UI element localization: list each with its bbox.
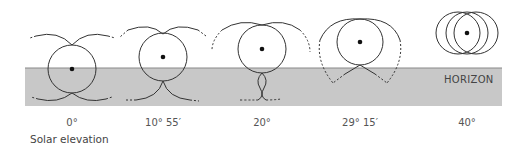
sun-center-dot xyxy=(70,67,75,72)
solar-elevation-diagram: HORIZON 0° 10° 55′ 20° 29° 15′ 40° Solar… xyxy=(0,0,524,156)
upper-arc-left xyxy=(36,34,72,45)
sun-center-dot xyxy=(358,40,363,45)
sun-center-dot xyxy=(161,55,166,60)
sun-center-dot xyxy=(465,31,470,36)
left-lobe xyxy=(436,12,480,54)
stage-40deg xyxy=(436,12,498,54)
stage-label-4: 40° xyxy=(458,117,476,128)
stage-label-3: 29° 15′ xyxy=(342,117,378,128)
horizon-label: HORIZON xyxy=(444,74,494,85)
sun-center-dot xyxy=(260,47,265,52)
stage-label-2: 20° xyxy=(253,117,271,128)
upper-arc-right xyxy=(72,34,108,45)
stage-label-0: 0° xyxy=(66,117,77,128)
stage-label-1: 10° 55′ xyxy=(145,117,181,128)
caption: Solar elevation xyxy=(30,133,109,145)
right-lobe xyxy=(454,12,498,54)
